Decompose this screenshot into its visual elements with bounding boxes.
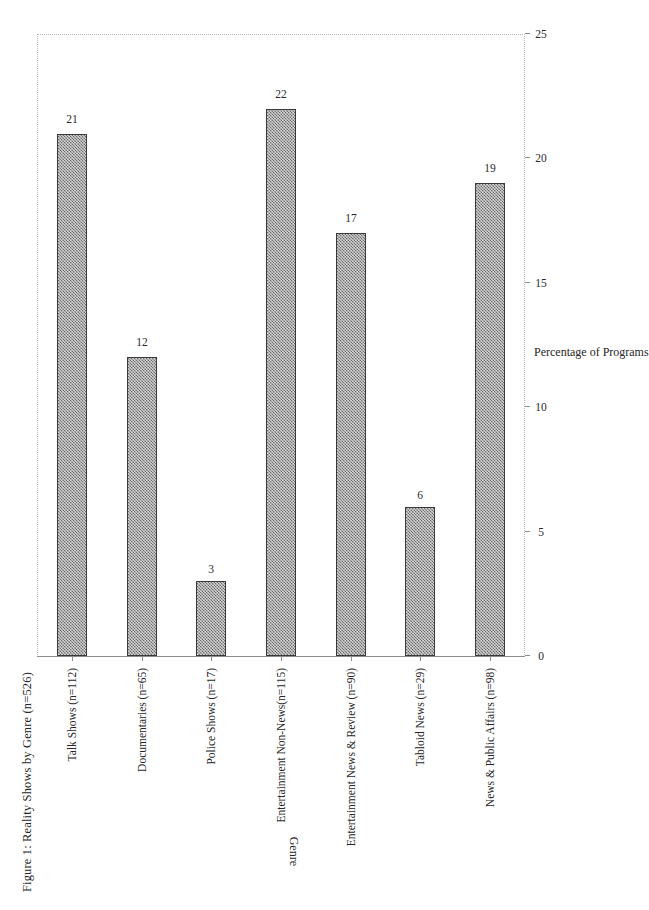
category-label: Talk Shows (n=112) (66, 668, 78, 761)
value-tick-label: 20 (535, 152, 547, 164)
category-label: Entertainment Non-News(n=115) (275, 668, 287, 823)
category-label: News & Public Affairs (n=98) (484, 668, 496, 807)
category-label: Entertainment News & Review (n=90) (345, 668, 357, 846)
category-axis-title: Genre (286, 837, 301, 866)
category-label: Police Shows (n=17) (205, 668, 217, 765)
value-tick-label: 10 (535, 401, 547, 413)
bar-value-label: 12 (136, 337, 148, 349)
bar[interactable] (127, 357, 157, 656)
bar[interactable] (336, 233, 366, 656)
bar[interactable] (405, 507, 435, 656)
category-label: Documentaries (n=65) (136, 668, 148, 772)
category-axis-labels: Talk Shows (n=112)Documentaries (n=65)Po… (37, 660, 525, 910)
bars-layer: 211232217619 (37, 34, 525, 656)
value-tick (525, 406, 530, 407)
bar-value-label: 3 (208, 564, 214, 576)
value-tick-label: 25 (535, 28, 547, 40)
value-tick (525, 282, 530, 283)
bar[interactable] (196, 581, 226, 656)
bar-value-label: 22 (275, 88, 287, 100)
value-tick-label: 15 (535, 277, 547, 289)
figure-title: Figure 1: Reality Shows by Genre (n=526) (20, 672, 35, 892)
value-tick-label: 5 (538, 526, 544, 538)
value-tick (525, 655, 530, 656)
category-label: Tabloid News (n=29) (414, 668, 426, 766)
bar[interactable] (57, 134, 87, 656)
value-tick (525, 157, 530, 158)
value-tick (525, 531, 530, 532)
bar-value-label: 21 (66, 113, 78, 125)
value-tick (525, 33, 530, 34)
bar[interactable] (475, 183, 505, 656)
bar[interactable] (266, 109, 296, 656)
value-tick-label: 0 (538, 650, 544, 662)
value-axis-title: Percentage of Programs (534, 345, 649, 360)
bar-value-label: 17 (345, 212, 357, 224)
bar-value-label: 6 (418, 489, 424, 501)
bar-value-label: 19 (484, 163, 496, 175)
